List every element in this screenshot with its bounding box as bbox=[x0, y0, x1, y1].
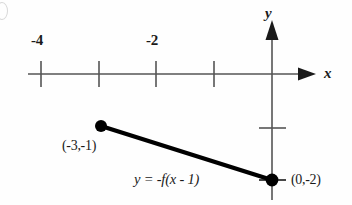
equation-label: y = -f(x - 1) bbox=[134, 172, 199, 187]
x-axis-arrowhead bbox=[298, 68, 316, 81]
x-tick-label-minus4: -4 bbox=[31, 33, 43, 48]
x-tick-label-minus2: -2 bbox=[146, 33, 158, 48]
endpoint-dot-left bbox=[95, 120, 107, 132]
endpoint-dot-right bbox=[266, 174, 279, 187]
point-label-left: (-3,-1) bbox=[62, 139, 96, 153]
x-axis-label: x bbox=[324, 66, 332, 81]
y-axis-arrowhead bbox=[266, 20, 279, 40]
point-label-right: (0,-2) bbox=[291, 173, 321, 187]
graph-figure: -4 -2 x y (-3,-1) (0,-2) y = -f(x - 1) bbox=[0, 0, 352, 205]
y-axis-label: y bbox=[265, 6, 272, 21]
